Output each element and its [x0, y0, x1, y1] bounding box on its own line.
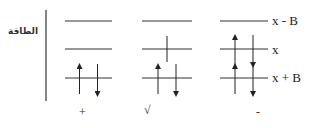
level-label-x-minus-b: x - B	[272, 14, 298, 27]
column-3-label: -	[256, 106, 260, 118]
column-2-label: √	[144, 104, 151, 116]
level-label-x-plus-b: x + B	[272, 71, 301, 84]
level-label-x: x	[272, 43, 279, 56]
column-1-label: +	[79, 106, 86, 118]
